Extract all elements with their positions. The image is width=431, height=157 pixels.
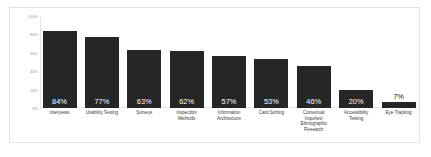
x-axis-category-labels: InterviewsUsability TestingSurveysInspec… [41, 110, 417, 142]
bar-slot: 46% [295, 16, 332, 108]
y-axis-tick-label: 100% [28, 14, 38, 19]
bar[interactable]: 53% [254, 59, 288, 108]
bar[interactable]: 46% [297, 66, 331, 108]
bar[interactable]: 7% [382, 102, 416, 108]
bar-series: 84%77%63%62%57%53%46%20%7% [41, 16, 417, 108]
category-label: Card Sorting [253, 110, 290, 142]
bar-chart: 0%20%40%60%80%100% 84%77%63%62%57%53%46%… [10, 8, 419, 142]
bar-slot: 57% [211, 16, 248, 108]
bar-value-label: 53% [264, 98, 279, 108]
bar-value-label: 46% [306, 98, 321, 108]
bar-value-label: 77% [94, 98, 109, 108]
y-axis-tick-label: 40% [30, 69, 38, 74]
category-label: Information Architecture [211, 110, 248, 142]
y-axis: 0%20%40%60%80%100% [13, 16, 40, 108]
bar-slot: 7% [380, 16, 417, 108]
bar[interactable]: 20% [339, 90, 373, 108]
y-axis-tick-label: 80% [30, 32, 38, 37]
bar[interactable]: 57% [212, 56, 246, 108]
y-axis-tick-label: 0% [32, 106, 38, 111]
bar-slot: 63% [126, 16, 163, 108]
bar-slot: 62% [168, 16, 205, 108]
category-label: Contextual Inquiries/ Ethnographic Resea… [295, 110, 332, 142]
category-label: Eye Tracking [380, 110, 417, 142]
bar[interactable]: 84% [43, 31, 77, 108]
chart-card: 0%20%40%60%80%100% 84%77%63%62%57%53%46%… [9, 7, 420, 143]
category-label: Usability Testing [83, 110, 120, 142]
bar-value-label: 84% [52, 98, 67, 108]
category-label: Inspection Methods [168, 110, 205, 142]
bar-value-label: 20% [349, 98, 364, 108]
bar[interactable]: 63% [127, 50, 161, 108]
bar-slot: 84% [41, 16, 78, 108]
bar-value-label: 57% [222, 98, 237, 108]
bar-slot: 77% [83, 16, 120, 108]
category-label: Surveys [126, 110, 163, 142]
bar[interactable]: 77% [85, 37, 119, 108]
y-axis-tick-label: 60% [30, 50, 38, 55]
category-label: Interviews [41, 110, 78, 142]
bar-value-label: 63% [137, 98, 152, 108]
y-axis-tick-label: 20% [30, 87, 38, 92]
bar-slot: 20% [338, 16, 375, 108]
category-label: Accessibility Testing [338, 110, 375, 142]
bar-slot: 53% [253, 16, 290, 108]
bar[interactable]: 62% [170, 51, 204, 108]
bar-value-label: 62% [179, 98, 194, 108]
bar-value-label: 7% [393, 93, 404, 101]
